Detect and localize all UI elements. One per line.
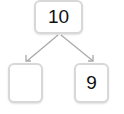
part-right-value: 9 — [86, 72, 97, 94]
part-box-right: 9 — [74, 63, 109, 103]
arrow-right-icon — [61, 35, 93, 61]
whole-box: 10 — [34, 0, 83, 34]
part-box-left[interactable] — [8, 63, 43, 103]
arrow-left-icon — [27, 35, 58, 61]
whole-value: 10 — [48, 6, 69, 28]
